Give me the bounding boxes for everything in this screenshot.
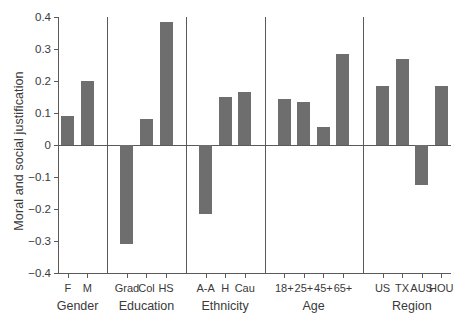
x-tick-mark (323, 273, 324, 278)
y-tick-label: −0.4 (28, 267, 51, 279)
y-tick-mark (54, 145, 59, 146)
x-category-label: M (83, 282, 92, 294)
x-tick-mark (422, 273, 423, 278)
x-category-label: Grad (115, 282, 139, 294)
bar (140, 119, 153, 145)
x-tick-mark (304, 273, 305, 278)
y-tick-label: −0.1 (28, 171, 51, 183)
y-axis-title: Moral and social justification (12, 31, 26, 271)
x-group-label: Region (392, 299, 432, 313)
x-axis-line (58, 273, 451, 274)
y-tick-mark (54, 209, 59, 210)
x-category-label: TX (395, 282, 409, 294)
x-tick-mark (383, 273, 384, 278)
x-tick-mark (245, 273, 246, 278)
bar (415, 145, 428, 185)
y-tick-label: −0.2 (28, 203, 51, 215)
y-tick-label: 0.3 (35, 43, 51, 55)
y-tick-label: 0.2 (35, 75, 51, 87)
group-separator (107, 17, 108, 273)
plot-area: 0.40.30.20.10−0.1−0.2−0.3−0.4 FMGradColH… (58, 17, 451, 273)
group-separator (186, 17, 187, 273)
bar-chart: Moral and social justification 0.40.30.2… (0, 0, 455, 318)
group-separator (265, 17, 266, 273)
x-tick-mark (284, 273, 285, 278)
x-category-label: 65+ (334, 282, 353, 294)
x-tick-mark (166, 273, 167, 278)
x-tick-mark (146, 273, 147, 278)
x-category-label: Cau (235, 282, 255, 294)
x-tick-mark (87, 273, 88, 278)
bar (376, 86, 389, 145)
bar (160, 22, 173, 145)
x-category-label: A-A (196, 282, 214, 294)
x-group-label: Gender (57, 299, 99, 313)
x-category-label: 45+ (314, 282, 333, 294)
y-tick-label: 0.1 (35, 107, 51, 119)
y-tick-mark (54, 177, 59, 178)
x-tick-mark (206, 273, 207, 278)
x-group-label: Education (119, 299, 175, 313)
bar (120, 145, 133, 244)
y-tick-mark (54, 49, 59, 50)
y-tick-mark (54, 273, 59, 274)
bar (219, 97, 232, 145)
bar (297, 102, 310, 145)
zero-baseline (58, 145, 451, 146)
y-tick-label: 0.4 (35, 11, 51, 23)
bar (396, 59, 409, 145)
bar (435, 86, 448, 145)
bar (278, 99, 291, 145)
bar (199, 145, 212, 214)
y-tick-mark (54, 113, 59, 114)
x-category-label: 18+ (275, 282, 294, 294)
x-category-label: Col (138, 282, 155, 294)
x-tick-mark (441, 273, 442, 278)
x-category-label: HOU (429, 282, 453, 294)
bar (336, 54, 349, 145)
x-group-label: Ethnicity (202, 299, 249, 313)
x-tick-mark (68, 273, 69, 278)
x-category-label: 25+ (295, 282, 314, 294)
x-category-label: US (375, 282, 390, 294)
group-separator (363, 17, 364, 273)
x-tick-mark (225, 273, 226, 278)
bar (81, 81, 94, 145)
bar (61, 116, 74, 145)
x-group-label: Age (303, 299, 325, 313)
x-tick-mark (127, 273, 128, 278)
y-tick-mark (54, 241, 59, 242)
x-category-label: F (64, 282, 71, 294)
y-tick-mark (54, 81, 59, 82)
bar (317, 127, 330, 145)
y-tick-label: −0.3 (28, 235, 51, 247)
bar (238, 92, 251, 145)
y-tick-mark (54, 17, 59, 18)
x-tick-mark (402, 273, 403, 278)
x-category-label: HS (158, 282, 173, 294)
y-tick-label: 0 (45, 139, 51, 151)
x-tick-mark (343, 273, 344, 278)
x-category-label: H (221, 282, 229, 294)
